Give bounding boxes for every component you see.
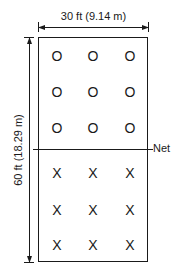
- player-x-marker: X: [122, 237, 138, 253]
- player-x-marker: X: [49, 202, 65, 218]
- player-x-marker: X: [49, 165, 65, 181]
- court-length-label: 60 ft (18.29 m): [12, 114, 24, 186]
- length-arrowheads-icon: [26, 37, 33, 263]
- player-x-marker: X: [85, 237, 101, 253]
- net-label: Net: [153, 142, 170, 154]
- width-arrowheads-icon: [38, 24, 149, 31]
- player-o-marker: O: [122, 120, 138, 136]
- player-o-marker: O: [85, 84, 101, 100]
- player-x-marker: X: [122, 202, 138, 218]
- net-line: [33, 149, 153, 150]
- player-o-marker: O: [49, 48, 65, 64]
- court-width-label: 30 ft (9.14 m): [38, 10, 149, 22]
- player-o-marker: O: [49, 120, 65, 136]
- player-x-marker: X: [85, 202, 101, 218]
- player-o-marker: O: [122, 84, 138, 100]
- player-o-marker: O: [85, 48, 101, 64]
- player-x-marker: X: [49, 237, 65, 253]
- player-x-marker: X: [122, 165, 138, 181]
- player-o-marker: O: [49, 84, 65, 100]
- player-o-marker: O: [85, 120, 101, 136]
- player-x-marker: X: [85, 165, 101, 181]
- player-o-marker: O: [122, 48, 138, 64]
